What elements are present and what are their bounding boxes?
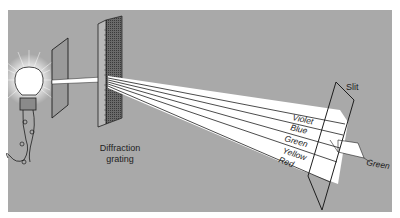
first-slit-plate [52,38,68,118]
grating-label-line1: Diffraction [100,143,140,153]
diffraction-diagram: Diffraction grating Slit Violet Blue Gre… [0,0,400,218]
slit-label: Slit [346,82,359,92]
transmitted-green-label: Green [366,157,391,171]
spectrum-fan [108,76,364,184]
diffraction-grating [98,16,122,127]
grating-label-line2: grating [106,154,134,164]
light-bulb-icon [3,50,56,164]
